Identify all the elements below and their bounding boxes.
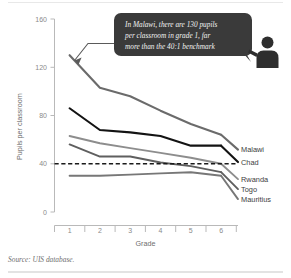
teacher-icon xyxy=(248,37,279,69)
series-label-layer: MalawiChadRwandaTogoMauritius xyxy=(241,145,271,204)
y-tick-label-80: 80 xyxy=(39,112,47,119)
x-tick-label-2: 2 xyxy=(98,227,102,234)
x-tick-label-4: 4 xyxy=(159,227,163,234)
y-tick-label-0: 0 xyxy=(43,209,47,216)
y-tick-label-120: 120 xyxy=(35,64,47,71)
x-tick-label-5: 5 xyxy=(189,227,193,234)
series-label-togo: Togo xyxy=(241,185,257,194)
callout-line-1: In Malawi, there are 130 pupils xyxy=(124,20,217,29)
series-layer xyxy=(70,55,238,199)
x-tick-label-1: 1 xyxy=(68,227,72,234)
x-tick-label-6: 6 xyxy=(219,227,223,234)
y-axis-title: Pupils per classroom xyxy=(15,93,24,160)
x-axis-title: Grade xyxy=(135,239,155,248)
callout-line-2: per classroom in grade 1, far xyxy=(124,31,210,40)
x-tick-label-3: 3 xyxy=(128,227,132,234)
y-axis: 160 120 80 40 0 xyxy=(35,16,54,216)
series-label-mauritius: Mauritius xyxy=(241,195,271,204)
series-label-malawi: Malawi xyxy=(241,145,264,154)
series-line-malawi xyxy=(70,55,222,135)
chart-figure: 160 120 80 40 0 Pupils per classroom 1 2… xyxy=(0,0,291,278)
annotation-callout: In Malawi, there are 130 pupils per clas… xyxy=(75,13,253,65)
line-chart: 160 120 80 40 0 Pupils per classroom 1 2… xyxy=(0,0,291,278)
bottom-divider xyxy=(8,271,283,273)
series-label-rwanda: Rwanda xyxy=(241,175,269,184)
y-tick-label-160: 160 xyxy=(35,16,47,23)
source-note: Source: UIS database. xyxy=(8,255,74,264)
x-axis: 1 2 3 4 5 6 xyxy=(55,226,239,235)
series-label-chad: Chad xyxy=(241,158,259,167)
series-leader-rwanda xyxy=(221,164,238,179)
y-tick-label-40: 40 xyxy=(39,160,47,167)
series-line-mauritius xyxy=(70,172,222,176)
callout-line-3: more than the 40:1 benchmark xyxy=(125,42,215,51)
